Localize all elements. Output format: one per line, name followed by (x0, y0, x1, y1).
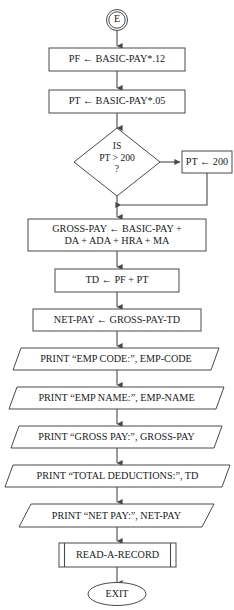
print-total-deductions-shape (5, 465, 230, 487)
pt-assign-shape (49, 90, 185, 113)
print-net-pay-shape (19, 504, 214, 527)
print-emp-code-shape (13, 348, 219, 370)
print-gross-pay-shape (11, 426, 222, 448)
gross-pay-shape (28, 219, 206, 251)
td-assign-shape (55, 269, 179, 292)
print-emp-name-shape (9, 387, 224, 409)
flowchart-canvas: E PF ← BASIC-PAY*.12 PT ← BASIC-PAY*.05 … (0, 0, 234, 610)
exit-terminal-shape (88, 583, 146, 606)
pt-decision-shape (74, 128, 160, 196)
flowchart-shapes-layer (0, 0, 234, 610)
read-record-shape (59, 543, 176, 567)
net-pay-shape (33, 309, 201, 331)
pt-cap-shape (182, 151, 232, 173)
entry-connector-inner-shape (109, 12, 125, 28)
pf-assign-shape (49, 48, 185, 71)
